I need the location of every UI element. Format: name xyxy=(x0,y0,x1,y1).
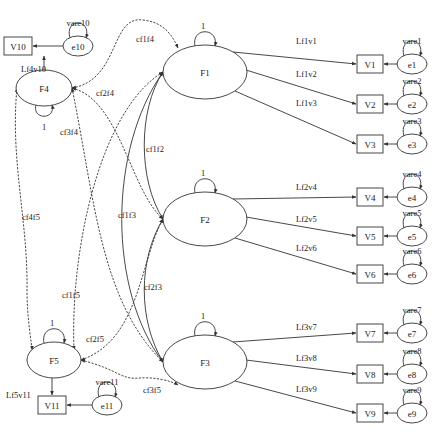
error-variance-label-e9: vare9 xyxy=(403,385,422,395)
factor-variance-label-f4: 1 xyxy=(42,122,46,132)
covariance-label-cf1f3: cf1f3 xyxy=(118,210,136,220)
observed-label-v7: V7 xyxy=(365,329,376,339)
factor-variance-loop-f5 xyxy=(44,329,65,343)
error-variance-label-e4: vare4 xyxy=(403,169,423,179)
observed-label-v4: V4 xyxy=(365,193,376,203)
observed-label-v3: V3 xyxy=(365,140,376,150)
covariance-label-cf1f2: cf1f2 xyxy=(146,144,164,154)
loading-arrow-v7 xyxy=(233,333,356,342)
factor-variance-loop-f1 xyxy=(195,32,216,46)
loading-label-v7: Lf3v7 xyxy=(296,322,317,332)
loading-label-v5: Lf2v5 xyxy=(296,214,317,224)
factor-label-f1: F1 xyxy=(200,68,210,78)
error-label-e11: e11 xyxy=(101,401,114,411)
error-label-e4: e4 xyxy=(408,193,417,203)
factor-variance-label-f3: 1 xyxy=(201,311,205,321)
factor-label-f3: F3 xyxy=(200,358,210,368)
loading-label-v3: Lf1v3 xyxy=(296,98,317,108)
factor-variance-loop-f2 xyxy=(195,179,216,193)
error-variance-label-e5: vare5 xyxy=(403,208,422,218)
error-label-e5: e5 xyxy=(408,232,417,242)
error-variance-label-e11: vare11 xyxy=(96,377,119,387)
error-variance-label-e10: vare10 xyxy=(66,18,89,28)
factor-label-f2: F2 xyxy=(200,215,210,225)
loading-arrow-v1 xyxy=(233,52,356,64)
factor-variance-label-f2: 1 xyxy=(201,168,205,178)
error-variance-label-e8: vare8 xyxy=(403,346,422,356)
covariance-label-cf1f5: cf1f5 xyxy=(62,290,80,300)
observed-label-v2: V2 xyxy=(365,100,376,110)
observed-label-v8: V8 xyxy=(365,370,376,380)
factor-label-f4: F4 xyxy=(39,84,49,94)
observed-label-v9: V9 xyxy=(365,409,376,419)
factor-variance-label-f5: 1 xyxy=(50,318,54,328)
error-label-e7: e7 xyxy=(408,329,417,339)
factor-variance-label-f1: 1 xyxy=(201,21,205,31)
covariance-label-cf4f5: cf4f5 xyxy=(22,212,40,222)
covariance-label-cf2f5: cf2f5 xyxy=(86,334,104,344)
loading-label-v9: Lf3v9 xyxy=(296,384,317,394)
observed-label-v5: V5 xyxy=(365,232,376,242)
error-variance-label-e7: vare7 xyxy=(403,305,422,315)
observed-label-v1: V1 xyxy=(365,60,376,70)
covariance-cf3f4 xyxy=(72,88,163,362)
error-variance-label-e2: vare2 xyxy=(403,76,422,86)
covariance-label-cf2f3: cf2f3 xyxy=(144,282,162,292)
error-variance-label-e1: vare1 xyxy=(403,36,422,46)
observed-label-v10: V10 xyxy=(10,42,26,52)
error-variance-label-e3: vare3 xyxy=(403,116,422,126)
loading-label-v2: Lf1v2 xyxy=(296,69,317,79)
observed-label-v11: V11 xyxy=(44,401,59,411)
loading-label-v4: Lf2v4 xyxy=(296,182,318,192)
error-label-e2: e2 xyxy=(408,100,417,110)
loading-label-v1: Lf1v1 xyxy=(296,36,317,46)
factor-label-f5: F5 xyxy=(49,356,59,366)
error-variance-label-e6: vare6 xyxy=(403,246,422,256)
error-label-e8: e8 xyxy=(408,370,417,380)
error-label-e3: e3 xyxy=(408,140,417,150)
error-label-e1: e1 xyxy=(408,60,417,70)
loading-label-v8: Lf3v8 xyxy=(296,353,317,363)
error-label-e6: e6 xyxy=(408,270,417,280)
path-diagram: Lf1v1V1e1vare1Lf1v2V2e2vare2Lf1v3V3e3var… xyxy=(0,0,442,439)
loading-label-v10: Lf4v10 xyxy=(21,64,46,74)
error-label-e10: e10 xyxy=(72,42,85,52)
covariance-label-cf2f4: cf2f4 xyxy=(96,88,115,98)
covariance-label-cf1f4: cf1f4 xyxy=(136,34,155,44)
loading-label-v11: Lf5v11 xyxy=(6,390,31,400)
loading-arrow-v4 xyxy=(233,197,356,199)
error-label-e9: e9 xyxy=(408,409,417,419)
observed-label-v6: V6 xyxy=(365,270,376,280)
loading-label-v6: Lf2v6 xyxy=(296,243,317,253)
factor-variance-loop-f3 xyxy=(195,322,216,336)
factor-variance-loop-f4 xyxy=(36,105,53,116)
covariance-label-cf3f5: cf3f5 xyxy=(143,385,161,395)
covariance-label-cf3f4: cf3f4 xyxy=(60,127,79,137)
